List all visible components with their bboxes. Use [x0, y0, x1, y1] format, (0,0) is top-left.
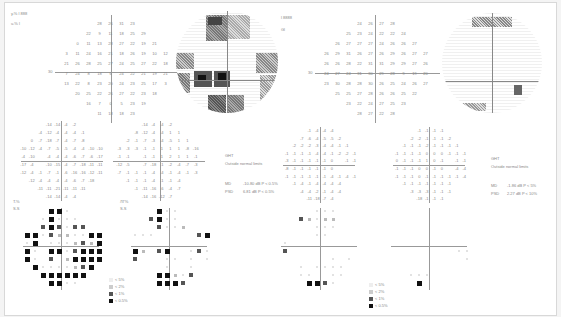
probability-symbol	[55, 239, 63, 247]
grid-value: -1	[431, 180, 439, 188]
grid-value	[343, 19, 354, 29]
grid-value: -7	[321, 195, 329, 203]
probability-symbol	[179, 207, 187, 215]
grid-value: 23	[127, 79, 138, 89]
legend-2-label: < 2%	[115, 284, 124, 289]
grid-value: -1	[461, 157, 469, 165]
probability-symbol	[139, 271, 147, 279]
probability-symbol	[195, 223, 203, 231]
grid-value: -16	[149, 185, 158, 193]
grid-value: -4	[53, 129, 62, 137]
probability-symbol	[23, 263, 31, 271]
probability-symbol	[71, 271, 79, 279]
grid-value: -6	[87, 153, 96, 161]
grid-value: -16	[192, 145, 201, 153]
left-pattern-deviation-grid: -14-4-4-2-8-12-4-411-2-1-7-3-4-511-3-3-3…	[115, 121, 200, 201]
legend-2-icon	[109, 285, 113, 289]
grid-value	[398, 19, 409, 29]
grid-value	[160, 109, 171, 119]
right-grayscale-map	[442, 13, 542, 113]
grid-value: -3	[192, 169, 201, 177]
grid-value: 23	[343, 99, 354, 109]
grid-value	[138, 109, 149, 119]
grid-value: -1	[446, 180, 454, 188]
grid-value: 29	[332, 49, 343, 59]
grid-value	[401, 135, 409, 143]
grid-value: -1	[438, 157, 446, 165]
grid-value: -1	[431, 127, 439, 135]
grid-value: -1	[149, 145, 158, 153]
grid-value: -1	[401, 165, 409, 173]
grid-value: 6	[105, 69, 116, 79]
probability-symbol	[139, 239, 147, 247]
probability-symbol	[305, 271, 313, 279]
probability-symbol	[281, 271, 289, 279]
grid-value: 27	[420, 79, 431, 89]
grid-value	[132, 161, 141, 169]
grid-value: 27	[354, 39, 365, 49]
probability-symbol	[95, 239, 103, 247]
grid-value: -4	[175, 177, 184, 185]
grid-value: 25	[343, 29, 354, 39]
grid-value: 3	[61, 49, 72, 59]
grid-value	[332, 109, 343, 119]
left-md-label: MD	[225, 181, 231, 186]
grid-value	[321, 109, 332, 119]
grid-value	[87, 137, 96, 145]
grid-value: -4	[158, 137, 167, 145]
grid-value: -4	[328, 180, 336, 188]
probability-symbol	[155, 223, 163, 231]
grid-value: 27	[365, 39, 376, 49]
left-td-prob-sub: S.S	[13, 206, 19, 211]
grid-value	[420, 29, 431, 39]
grid-value	[28, 193, 37, 201]
probability-symbol	[63, 271, 71, 279]
grid-value	[453, 135, 461, 143]
probability-symbol	[203, 279, 211, 287]
left-td-probability-plot	[23, 207, 103, 287]
grid-value	[61, 19, 72, 29]
probability-symbol	[337, 231, 345, 239]
probability-symbol	[47, 223, 55, 231]
probability-symbol	[87, 271, 95, 279]
grid-value: 23	[127, 99, 138, 109]
left-ght-label: GHT	[225, 153, 233, 158]
grid-value: -1	[298, 157, 306, 165]
grid-value: -4	[45, 177, 54, 185]
grid-value: 23	[321, 79, 332, 89]
grid-value	[175, 193, 184, 201]
grid-value	[160, 89, 171, 99]
grid-value: 19	[138, 39, 149, 49]
probability-symbol	[147, 215, 155, 223]
grid-value	[19, 177, 28, 185]
grid-value: -11	[96, 169, 105, 177]
grid-value: 24	[398, 29, 409, 39]
probability-symbol	[39, 239, 47, 247]
probability-symbol	[131, 207, 139, 215]
grid-value: 26	[72, 59, 83, 69]
probability-symbol	[391, 271, 399, 279]
grid-value: 1	[183, 153, 192, 161]
grid-value	[393, 195, 401, 203]
probability-symbol	[55, 263, 63, 271]
probability-symbol	[337, 279, 345, 287]
grid-value: 31	[343, 49, 354, 59]
grid-value: 22	[376, 29, 387, 39]
probability-symbol	[297, 207, 305, 215]
probability-symbol	[337, 207, 345, 215]
grid-value: 21	[138, 69, 149, 79]
grid-value	[409, 99, 420, 109]
grid-value: 1	[183, 137, 192, 145]
probability-symbol	[187, 223, 195, 231]
grid-value: 26	[376, 49, 387, 59]
grid-value	[115, 177, 124, 185]
right-header-line-1: l 8888	[281, 15, 292, 20]
probability-symbol	[31, 207, 39, 215]
grid-value: -2	[306, 142, 314, 150]
probability-symbol	[289, 279, 297, 287]
grid-value: 26	[398, 49, 409, 59]
grid-value: 0	[431, 150, 439, 158]
grid-value	[321, 29, 332, 39]
grid-value: 2	[166, 153, 175, 161]
probability-symbol	[171, 215, 179, 223]
